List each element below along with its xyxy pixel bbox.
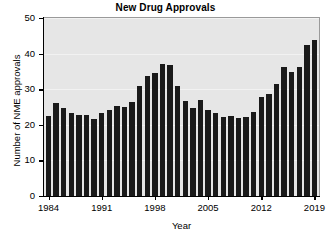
x-tick-label: 1998 — [135, 202, 175, 213]
bar — [107, 110, 112, 197]
bar — [213, 113, 218, 196]
y-tick-mark — [39, 89, 43, 90]
bar — [76, 115, 81, 196]
bar — [99, 113, 104, 196]
gridline — [44, 18, 319, 19]
x-tick-label: 2012 — [241, 202, 281, 213]
bar — [183, 101, 188, 196]
y-tick-mark — [39, 160, 43, 161]
x-tick-label: 2019 — [294, 202, 331, 213]
bar — [160, 64, 165, 196]
y-tick-mark — [39, 54, 43, 55]
plot-frame-right — [319, 17, 320, 197]
bar — [259, 97, 264, 196]
bar — [46, 116, 51, 196]
bar — [236, 118, 241, 196]
x-tick-mark — [49, 196, 50, 200]
chart-title: New Drug Approvals — [0, 1, 331, 14]
bar — [266, 94, 271, 196]
x-tick-label: 1984 — [29, 202, 69, 213]
x-tick-mark — [155, 196, 156, 200]
bar — [297, 67, 302, 196]
y-tick-mark — [39, 125, 43, 126]
bar — [129, 102, 134, 196]
x-tick-mark — [314, 196, 315, 200]
x-tick-mark — [261, 196, 262, 200]
bar — [198, 100, 203, 196]
y-tick-mark — [39, 196, 43, 197]
gridline — [44, 54, 319, 55]
bar — [205, 110, 210, 196]
bar — [122, 107, 127, 196]
bar — [175, 86, 180, 196]
bar — [304, 45, 309, 196]
plot-area — [44, 18, 319, 196]
bar — [312, 40, 317, 196]
x-tick-mark — [208, 196, 209, 200]
bar — [152, 73, 157, 196]
x-axis-line — [43, 196, 320, 197]
bar — [221, 117, 226, 196]
x-tick-mark — [102, 196, 103, 200]
bar — [84, 115, 89, 196]
x-tick-label: 1991 — [82, 202, 122, 213]
bar — [137, 86, 142, 196]
bar — [145, 76, 150, 196]
x-axis-title: Year — [44, 220, 319, 231]
bar — [243, 117, 248, 196]
y-axis-line — [43, 17, 44, 197]
y-tick-mark — [39, 18, 43, 19]
bar — [114, 106, 119, 196]
chart-figure: New Drug Approvals 01020304050 198419911… — [0, 0, 331, 236]
plot-frame-top — [44, 17, 320, 18]
x-tick-label: 2005 — [188, 202, 228, 213]
bar — [53, 103, 58, 196]
bar — [91, 119, 96, 196]
bar — [274, 84, 279, 196]
bar — [228, 116, 233, 196]
bar — [69, 113, 74, 196]
bar — [61, 108, 66, 196]
bar — [289, 72, 294, 196]
bar — [190, 108, 195, 196]
bar — [281, 67, 286, 196]
bar — [251, 112, 256, 196]
bar — [167, 65, 172, 196]
y-axis-title: Number of NME approvals — [11, 21, 22, 201]
